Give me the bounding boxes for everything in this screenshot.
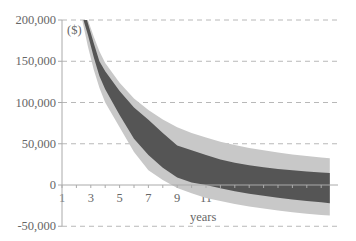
x-tick-label: 7 bbox=[145, 191, 151, 205]
y-unit-label: ($) bbox=[67, 23, 82, 37]
x-tick-label: 9 bbox=[174, 191, 180, 205]
y-tick-label: 50,000 bbox=[22, 137, 56, 151]
x-tick-label: 3 bbox=[88, 191, 94, 205]
y-tick-label: 0 bbox=[50, 178, 56, 192]
y-tick-label: -50,000 bbox=[17, 219, 56, 233]
x-axis-title: years bbox=[190, 210, 217, 224]
data-bands bbox=[82, 0, 330, 215]
y-tick-label: 150,000 bbox=[15, 54, 56, 68]
y-tick-label: 200,000 bbox=[15, 13, 56, 27]
y-axis-tick-labels: 200,000150,000100,00050,0000-50,000 bbox=[15, 13, 56, 233]
x-tick-label: 5 bbox=[116, 191, 122, 205]
chart-canvas: 135791113151719 200,000150,000100,00050,… bbox=[0, 0, 356, 241]
inner-band bbox=[82, 4, 330, 204]
y-tick-label: 100,000 bbox=[15, 96, 56, 110]
